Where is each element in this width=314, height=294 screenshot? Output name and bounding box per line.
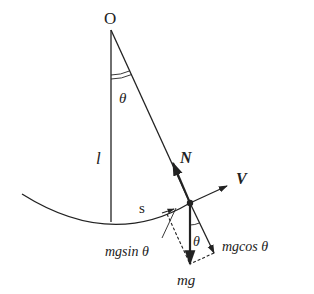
tangential-component-label: mgsin θ <box>105 244 149 259</box>
angle-arc-bottom <box>190 223 199 225</box>
normal-force-arrow <box>173 163 190 203</box>
trajectory-arc <box>22 194 190 224</box>
angle-top-label: θ <box>119 90 127 106</box>
arc-length-label: s <box>139 200 145 216</box>
normal-force-label: N <box>179 149 193 166</box>
radial-component-label: mgcos θ <box>222 239 268 254</box>
angle-bottom-label: θ <box>193 234 200 249</box>
pivot-label: O <box>104 9 116 28</box>
pendulum-bob <box>187 200 193 206</box>
length-label: l <box>96 149 101 168</box>
weight-label: mg <box>177 272 196 288</box>
velocity-label: V <box>236 170 248 187</box>
pendulum-diagram: O l θ N V s mgsin θ θ mgcos θ mg <box>0 0 314 294</box>
dashed-line-tangential <box>167 214 190 264</box>
dashed-line-radial <box>190 253 214 264</box>
velocity-arrow <box>190 186 227 203</box>
angle-arc-top-inner <box>111 71 130 75</box>
